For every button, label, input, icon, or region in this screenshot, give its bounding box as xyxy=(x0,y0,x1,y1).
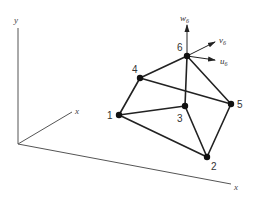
node-1-label: 1 xyxy=(107,110,113,121)
node-1 xyxy=(116,112,122,118)
edge-1-3 xyxy=(119,106,185,115)
edge-1-2 xyxy=(119,115,207,157)
edge-1-4 xyxy=(119,78,140,115)
node-2 xyxy=(204,154,210,160)
node-4 xyxy=(137,75,143,81)
u6-label: u6 xyxy=(220,56,228,67)
node-3-label: 3 xyxy=(177,113,183,124)
diagonal-axis xyxy=(18,112,72,144)
element-diagram: y x x w6 v6 u6 1 2 3 4 5 6 xyxy=(0,0,260,198)
v6-arrow xyxy=(187,42,215,56)
node-2-label: 2 xyxy=(211,161,217,172)
node-6-label: 6 xyxy=(177,42,183,53)
y-axis-label: y xyxy=(13,15,18,25)
node-4-label: 4 xyxy=(132,64,138,75)
node-5 xyxy=(228,101,234,107)
node-6 xyxy=(184,53,190,59)
edge-4-6 xyxy=(140,56,187,78)
node-3 xyxy=(182,103,188,109)
edge-5-2 xyxy=(207,104,231,157)
w6-label: w6 xyxy=(180,13,189,24)
node-5-label: 5 xyxy=(237,99,243,110)
v6-label: v6 xyxy=(219,35,226,46)
edge-3-2 xyxy=(185,106,207,157)
diagonal-axis-label: x xyxy=(74,106,79,116)
node-6-displacement-vectors xyxy=(187,25,215,60)
horizontal-x-axis xyxy=(18,144,231,184)
x-axis-label: x xyxy=(233,182,238,192)
edge-6-3 xyxy=(185,56,187,106)
